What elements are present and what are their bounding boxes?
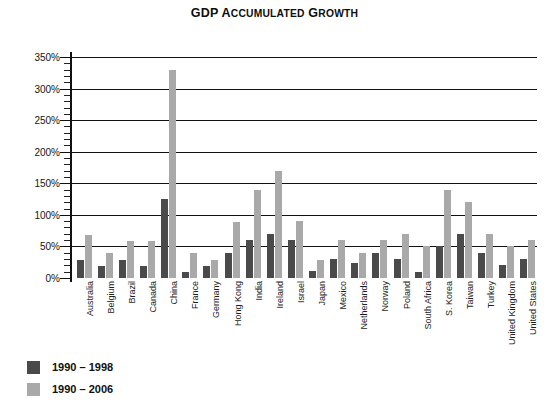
bar	[330, 259, 337, 278]
gdp-accumulated-growth-chart: GDP ACCUMULATED GROWTH 0%50%100%150%200%…	[0, 0, 549, 410]
bar	[338, 240, 345, 278]
bar	[190, 253, 197, 278]
y-axis-labels: 0%50%100%150%200%250%300%350%	[0, 0, 60, 410]
x-axis-tick-label: Ireland	[276, 281, 285, 309]
bar	[402, 234, 409, 278]
legend-swatch	[27, 383, 40, 396]
bar-group	[181, 57, 197, 278]
bar	[317, 260, 324, 278]
bar	[267, 234, 274, 278]
bar	[275, 171, 282, 278]
bar	[499, 265, 506, 278]
bar-group	[97, 57, 113, 278]
bar	[106, 253, 113, 278]
x-axis-tick-label: Taiwan	[466, 281, 475, 309]
x-axis-tick-label: Netherlands	[360, 281, 369, 330]
x-axis-tick-label: Belgium	[107, 281, 116, 314]
bar-group	[118, 57, 134, 278]
bar	[140, 266, 147, 278]
bar-group	[224, 57, 240, 278]
legend-label: 1990 – 2006	[52, 383, 113, 395]
bar	[309, 271, 316, 278]
y-axis-tick-label: 250%	[4, 115, 60, 126]
bar-group	[76, 57, 92, 278]
x-axis-tick-label: Australia	[86, 281, 95, 316]
y-axis-tick-label: 200%	[4, 146, 60, 157]
bar-group	[477, 57, 493, 278]
bar	[465, 202, 472, 278]
bar-group	[329, 57, 345, 278]
bar	[380, 240, 387, 278]
x-axis-tick-label: South Africa	[424, 281, 433, 330]
bar	[359, 253, 366, 278]
bar	[246, 240, 253, 278]
bar	[148, 241, 155, 278]
x-axis-tick-label: Japan	[318, 281, 327, 306]
x-axis-tick-label: United Kingdom	[508, 281, 517, 345]
bar-group	[519, 57, 535, 278]
bar	[288, 240, 295, 278]
y-axis-tick-label: 150%	[4, 178, 60, 189]
x-axis-tick-label: Germany	[212, 281, 221, 318]
legend-item: 1990 – 2006	[27, 378, 247, 400]
x-axis-tick-label: Hong Kong	[234, 281, 243, 326]
bar	[254, 190, 261, 278]
x-axis-tick-label: France	[191, 281, 200, 309]
bar-group	[287, 57, 303, 278]
bar-group	[456, 57, 472, 278]
bar	[203, 266, 210, 278]
bar-group	[202, 57, 218, 278]
bar-group	[371, 57, 387, 278]
bar	[169, 70, 176, 278]
bar-group	[414, 57, 430, 278]
x-axis-tick-label: Brazil	[128, 281, 137, 304]
bar-group	[498, 57, 514, 278]
chart-legend: 1990 – 19981990 – 2006	[27, 356, 247, 400]
x-axis-tick-label: Israel	[297, 281, 306, 303]
bar	[478, 253, 485, 278]
bar-group	[139, 57, 155, 278]
x-axis-tick-label: China	[170, 281, 179, 305]
legend-swatch	[27, 361, 40, 374]
x-axis-tick-label: Norway	[381, 281, 390, 312]
x-axis-tick-label: United States	[529, 281, 538, 335]
bar	[457, 234, 464, 278]
bar	[394, 259, 401, 278]
bar	[444, 190, 451, 278]
chart-title: GDP ACCUMULATED GROWTH	[0, 6, 549, 20]
bar	[520, 259, 527, 278]
x-axis-tick-label: Poland	[403, 281, 412, 309]
bar	[98, 266, 105, 278]
bar	[225, 253, 232, 278]
legend-label: 1990 – 1998	[52, 361, 113, 373]
x-axis-category-labels: AustraliaBelgiumBrazilCanadaChinaFranceG…	[72, 281, 537, 351]
x-axis-tick-label: Turkey	[487, 281, 496, 308]
bar	[372, 253, 379, 278]
bar-group	[350, 57, 366, 278]
bar	[415, 272, 422, 278]
bar-group	[266, 57, 282, 278]
x-axis-tick-label: India	[255, 281, 264, 301]
bar-group	[393, 57, 409, 278]
bar	[296, 221, 303, 278]
bar	[77, 260, 84, 278]
bar	[127, 241, 134, 278]
bar-groups	[72, 57, 537, 278]
y-axis-tick-label: 100%	[4, 209, 60, 220]
bar-group	[245, 57, 261, 278]
bar-group	[435, 57, 451, 278]
x-axis-tick-label: Canada	[149, 281, 158, 313]
y-axis-tick-label: 300%	[4, 83, 60, 94]
bar	[161, 199, 168, 278]
bar-group	[160, 57, 176, 278]
y-axis-tick-label: 350%	[4, 52, 60, 63]
bar	[507, 246, 514, 278]
bar	[233, 222, 240, 278]
bar	[182, 272, 189, 278]
bar	[211, 260, 218, 278]
y-axis-tick-label: 50%	[4, 241, 60, 252]
bar	[436, 246, 443, 278]
x-axis-tick-label: S. Korea	[445, 281, 454, 316]
legend-item: 1990 – 1998	[27, 356, 247, 378]
bar	[528, 240, 535, 278]
